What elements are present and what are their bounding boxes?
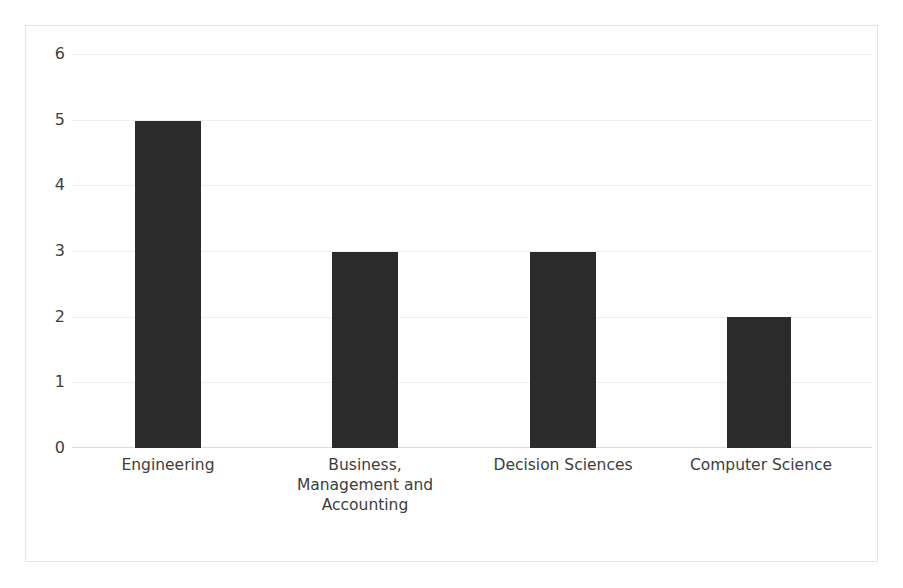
bar-computer-science[interactable] xyxy=(727,317,791,448)
y-axis-tick-label: 0 xyxy=(25,440,65,456)
y-axis-tick-label: 4 xyxy=(25,177,65,193)
bar-chart: 6 5 4 3 2 1 0 Engineering Business, Mana… xyxy=(0,0,903,588)
x-axis-label-computer-science: Computer Science xyxy=(679,455,843,475)
y-axis-tick-label: 3 xyxy=(25,243,65,259)
y-axis-tick-label: 2 xyxy=(25,309,65,325)
bar-business-management-and-accounting[interactable] xyxy=(332,252,398,449)
x-axis-label-decision-sciences: Decision Sciences xyxy=(483,455,643,475)
y-axis-tick-label: 6 xyxy=(25,46,65,62)
gridline-6 xyxy=(72,54,872,55)
x-axis-label-engineering: Engineering xyxy=(88,455,248,475)
y-axis-tick-label: 1 xyxy=(25,374,65,390)
y-axis-tick-label: 5 xyxy=(25,112,65,128)
y-axis-tick-labels: 6 5 4 3 2 1 0 xyxy=(25,54,65,448)
x-axis-label-business-management-and-accounting: Business, Management and Accounting xyxy=(287,455,443,515)
bar-engineering[interactable] xyxy=(135,121,201,449)
plot-area xyxy=(72,54,872,448)
x-axis-category-labels: Engineering Business, Management and Acc… xyxy=(72,455,872,555)
bar-decision-sciences[interactable] xyxy=(530,252,596,449)
